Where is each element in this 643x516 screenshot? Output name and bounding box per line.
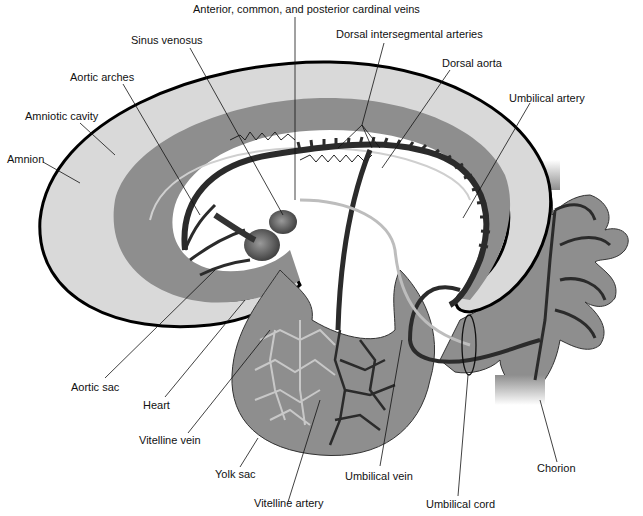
label-aortic-sac: Aortic sac: [71, 381, 119, 393]
label-umbilical-artery: Umbilical artery: [509, 92, 585, 104]
label-vitelline-artery: Vitelline artery: [254, 497, 324, 509]
yolk-sac: [232, 270, 435, 456]
label-vitelline-vein: Vitelline vein: [139, 434, 201, 446]
label-dorsal-aorta: Dorsal aorta: [442, 57, 502, 69]
label-umbilical-cord: Umbilical cord: [426, 498, 495, 510]
label-amnion: Amnion: [7, 153, 44, 165]
label-cardinal-veins: Anterior, common, and posterior cardinal…: [193, 3, 420, 15]
label-dorsal-intersegmental-arteries: Dorsal intersegmental arteries: [336, 28, 483, 40]
label-yolk-sac: Yolk sac: [215, 468, 256, 480]
label-chorion: Chorion: [537, 462, 576, 474]
label-amniotic-cavity: Amniotic cavity: [25, 110, 98, 122]
label-umbilical-vein: Umbilical vein: [345, 470, 413, 482]
label-sinus-venosus: Sinus venosus: [131, 34, 203, 46]
label-heart: Heart: [143, 399, 170, 411]
label-aortic-arches: Aortic arches: [70, 71, 134, 83]
